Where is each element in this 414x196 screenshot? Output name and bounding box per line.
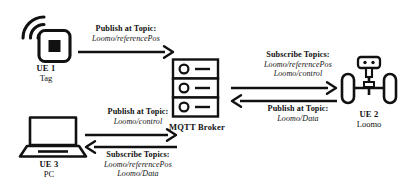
node-label-ue1: UE 1 Tag (10, 64, 82, 83)
flow-label-ue2-to-broker: Publish at Topic: Loomo/Data (243, 104, 353, 123)
flow-topic-ue1-to-broker-0: Loomo/referencePos (76, 34, 176, 43)
arrow-ue1-to-broker (78, 44, 174, 60)
flow-label-ue3-to-broker: Publish at Topic: Loomo/control (86, 107, 190, 126)
wireless-tag-icon (14, 8, 76, 64)
node-role-ue3: PC (13, 170, 85, 180)
flow-title-ue3-to-broker: Publish at Topic: (86, 107, 190, 117)
flow-title-ue2-to-broker: Publish at Topic: (243, 104, 353, 114)
flow-label-broker-to-ue2: Subscribe Topics: Loomo/referencePos Loo… (243, 50, 353, 78)
flow-topic-broker-to-ue2-1: Loomo/control (243, 69, 353, 78)
flow-topic-ue3-to-broker-0: Loomo/control (86, 117, 190, 126)
flow-topic-broker-to-ue3-1: Loomo/Data (86, 169, 190, 178)
flow-topic-ue2-to-broker-0: Loomo/Data (243, 114, 353, 123)
node-label-ue3: UE 3 PC (13, 160, 85, 179)
flow-topic-broker-to-ue2-0: Loomo/referencePos (243, 60, 353, 69)
flow-title-broker-to-ue2: Subscribe Topics: (243, 50, 353, 60)
flow-title-broker-to-ue3: Subscribe Topics: (86, 150, 190, 160)
flow-topic-broker-to-ue3-0: Loomo/referencePos (86, 160, 190, 169)
flow-label-broker-to-ue3: Subscribe Topics: Loomo/referencePos Loo… (86, 150, 190, 178)
flow-title-ue1-to-broker: Publish at Topic: (76, 24, 176, 34)
node-role-ue1: Tag (10, 74, 82, 84)
diagram-canvas: UE 1 Tag MQTT Broker (0, 0, 414, 196)
flow-label-ue1-to-broker: Publish at Topic: Loomo/referencePos (76, 24, 176, 43)
laptop-icon (18, 115, 88, 159)
